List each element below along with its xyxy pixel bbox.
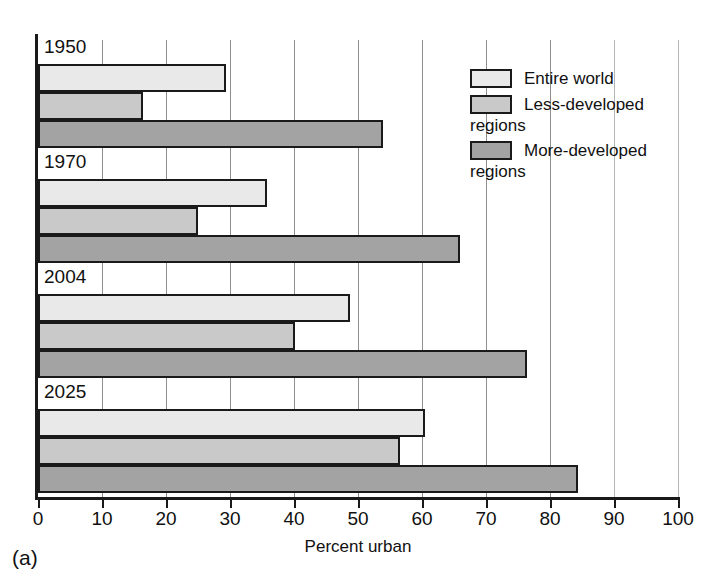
x-tick-label-20: 20 xyxy=(142,508,190,530)
legend-item-0: Entire world xyxy=(470,68,700,90)
x-tick-30 xyxy=(230,500,232,508)
x-tick-90 xyxy=(614,500,616,508)
bar-1950-more-developed-regions xyxy=(38,120,383,148)
x-tick-label-100: 100 xyxy=(654,508,702,530)
bar-2004-entire-world xyxy=(38,294,350,322)
x-tick-label-0: 0 xyxy=(14,508,62,530)
x-tick-10 xyxy=(102,500,104,508)
x-tick-40 xyxy=(294,500,296,508)
x-tick-label-60: 60 xyxy=(398,508,446,530)
group-label-2004: 2004 xyxy=(44,266,86,288)
x-tick-80 xyxy=(550,500,552,508)
bar-1950-less-developed-regions xyxy=(38,92,143,120)
x-tick-label-40: 40 xyxy=(270,508,318,530)
legend-item-2: More-developed regions xyxy=(470,140,700,182)
x-tick-label-50: 50 xyxy=(334,508,382,530)
bar-1970-more-developed-regions xyxy=(38,235,460,263)
legend-swatch-2 xyxy=(470,141,512,160)
x-tick-20 xyxy=(166,500,168,508)
x-tick-70 xyxy=(486,500,488,508)
x-tick-100 xyxy=(678,500,680,508)
y-axis-line xyxy=(35,34,38,500)
x-tick-0 xyxy=(38,500,40,508)
x-tick-50 xyxy=(358,500,360,508)
panel-label: (a) xyxy=(12,546,38,570)
x-tick-60 xyxy=(422,500,424,508)
group-label-2025: 2025 xyxy=(44,381,86,403)
legend: Entire worldLess-developed regionsMore-d… xyxy=(470,68,700,186)
figure-container: 1950197020042025 0102030405060708090100 … xyxy=(0,0,719,577)
legend-swatch-1 xyxy=(470,95,512,114)
bar-2004-less-developed-regions xyxy=(38,322,295,350)
bar-1970-less-developed-regions xyxy=(38,207,198,235)
x-tick-label-10: 10 xyxy=(78,508,126,530)
bar-2025-less-developed-regions xyxy=(38,437,400,465)
legend-label-0: Entire world xyxy=(524,69,614,88)
bar-2025-entire-world xyxy=(38,409,425,437)
group-label-1950: 1950 xyxy=(44,36,86,58)
bar-2025-more-developed-regions xyxy=(38,465,578,493)
x-tick-label-80: 80 xyxy=(526,508,574,530)
bar-1970-entire-world xyxy=(38,179,267,207)
x-tick-label-90: 90 xyxy=(590,508,638,530)
x-axis-label: Percent urban xyxy=(38,537,678,557)
x-tick-label-70: 70 xyxy=(462,508,510,530)
x-tick-label-30: 30 xyxy=(206,508,254,530)
legend-item-1: Less-developed regions xyxy=(470,94,700,136)
bar-2004-more-developed-regions xyxy=(38,350,527,378)
legend-swatch-0 xyxy=(470,69,512,88)
group-label-1970: 1970 xyxy=(44,151,86,173)
bar-1950-entire-world xyxy=(38,64,226,92)
